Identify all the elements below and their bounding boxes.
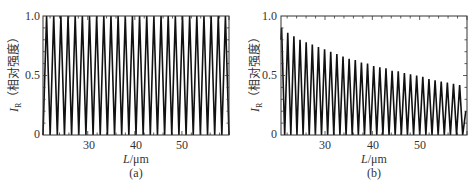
y-var: I bbox=[7, 108, 21, 112]
y-text: （相对强度） bbox=[7, 31, 21, 103]
y-text: （相对强度） bbox=[248, 31, 262, 103]
xtick-label: 50 bbox=[170, 138, 194, 153]
ytick-label: 1.0 bbox=[257, 9, 277, 24]
y-var: I bbox=[248, 108, 262, 112]
xtick-label: 30 bbox=[77, 138, 101, 153]
y-axis-label: IR（相对强度） bbox=[245, 31, 264, 112]
chart-panel-a: 1.0 0.5 0 30 40 50 IR（相对强度） L/μm (a) bbox=[0, 0, 237, 185]
x-unit: /μm bbox=[130, 152, 149, 166]
ytick-label: 1.0 bbox=[20, 9, 40, 24]
panel-caption: (a) bbox=[121, 166, 151, 181]
xtick-label: 40 bbox=[124, 138, 148, 153]
y-sub: R bbox=[255, 103, 264, 108]
x-var: L bbox=[361, 152, 368, 166]
xtick-label: 30 bbox=[313, 138, 337, 153]
ytick-label: 0 bbox=[257, 127, 277, 142]
y-axis-label: IR（相对强度） bbox=[4, 31, 23, 112]
x-axis-label: L/μm bbox=[106, 152, 166, 167]
x-axis-label: L/μm bbox=[344, 152, 404, 167]
xtick-label: 40 bbox=[361, 138, 385, 153]
panel-caption: (b) bbox=[359, 166, 389, 181]
x-unit: /μm bbox=[368, 152, 387, 166]
ytick-label: 0 bbox=[20, 127, 40, 142]
chart-panel-b: 1.0 0.5 0 30 40 50 IR（相对强度） L/μm (b) bbox=[237, 0, 475, 185]
xtick-label: 50 bbox=[408, 138, 432, 153]
y-sub: R bbox=[14, 103, 23, 108]
x-var: L bbox=[123, 152, 130, 166]
